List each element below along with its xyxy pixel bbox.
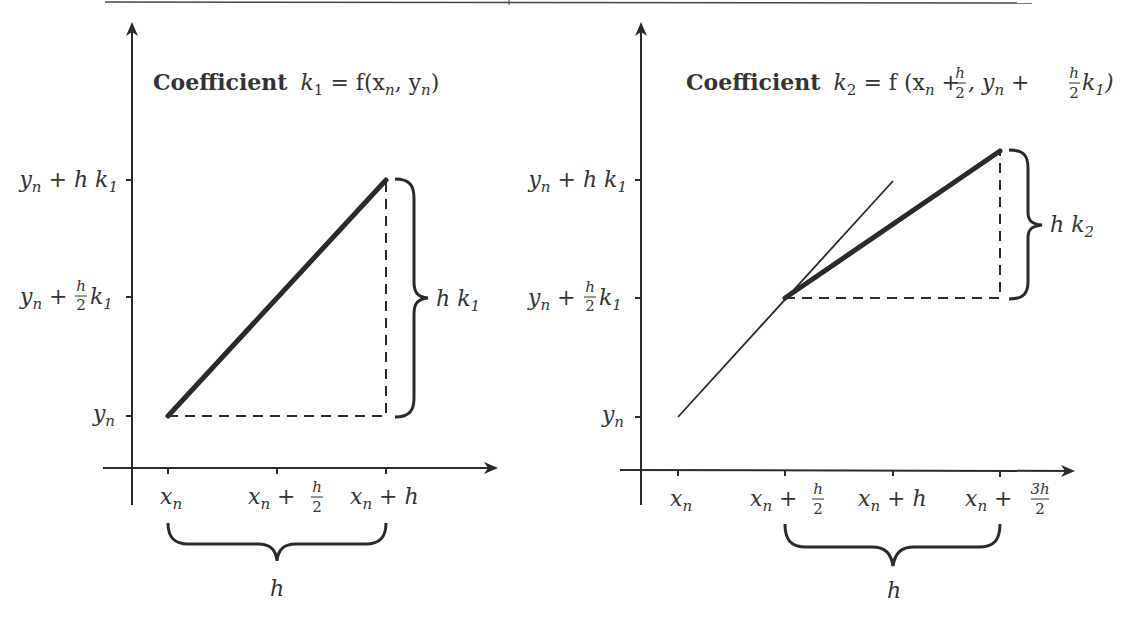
svg-text:Coefficient k2 = f (xn: Coefficient k2 = f (xn + [686, 69, 960, 99]
y-tick-label-base: yn [601, 402, 624, 431]
x-tick-label-3: xn + 3h 2 [965, 480, 1050, 518]
y-tick-label-mid: yn + h 2 k1 [527, 278, 622, 315]
svg-text:k1): k1) [1082, 70, 1113, 99]
y-tick-label-top: yn + h k1 [18, 167, 118, 196]
svg-text:h: h [312, 478, 322, 496]
y-tick-label-base: yn [92, 401, 115, 430]
svg-text:h: h [813, 480, 823, 498]
svg-text:xn +: xn + [750, 486, 798, 515]
slope-k2-line [785, 151, 1000, 298]
x-tick-label-0: xn [160, 484, 182, 513]
x-tick-label-1: xn + h 2 [750, 480, 824, 518]
panel-k2: Coefficient k2 = f (xn + h 2 , yn + h 2 … [527, 24, 1113, 603]
top-rule [105, 0, 1032, 5]
y-tick-label-top: yn + h k1 [527, 167, 627, 196]
svg-text:yn +: yn + [527, 285, 576, 314]
right-brace-label: h k1 [436, 286, 480, 315]
svg-text:2: 2 [585, 297, 595, 315]
svg-text:h: h [955, 64, 965, 82]
y-tick-label-mid: yn + h 2 k1 [19, 277, 113, 314]
svg-text:h: h [1069, 64, 1079, 82]
bottom-brace [785, 524, 1000, 566]
svg-text:yn +: yn + [19, 284, 68, 313]
right-brace [1009, 150, 1042, 299]
svg-text:, yn +: , yn + [968, 70, 1030, 99]
svg-text:2: 2 [1069, 84, 1079, 102]
panel-k1: Coefficient k1 = f(xn, yn) yn + h k1 yn … [18, 24, 496, 601]
x-tick-label-2: xn + h [350, 484, 419, 513]
svg-text:3h: 3h [1030, 480, 1049, 498]
x-axis [620, 470, 1073, 471]
bottom-brace-label: h [887, 578, 901, 603]
svg-text:2: 2 [1035, 500, 1045, 518]
svg-text:xn +: xn + [248, 484, 296, 513]
x-tick-label-0: xn [670, 486, 692, 515]
slope-k1-line [168, 180, 386, 416]
x-tick-label-2: xn + h [858, 486, 927, 515]
right-brace-label: h k2 [1050, 212, 1094, 241]
svg-text:2: 2 [312, 498, 322, 516]
svg-text:2: 2 [955, 84, 965, 102]
svg-text:xn +: xn + [965, 486, 1013, 515]
svg-text:h: h [76, 277, 86, 295]
panel-title: Coefficient k2 = f (xn + h 2 , yn + h 2 … [686, 64, 1113, 102]
panel-title: Coefficient k1 = f(xn, yn) [153, 69, 439, 99]
svg-text:h: h [585, 278, 595, 296]
bottom-brace-label: h [270, 576, 284, 601]
right-brace [395, 179, 428, 417]
svg-text:k1: k1 [599, 285, 622, 314]
runge-kutta-diagram: Coefficient k1 = f(xn, yn) yn + h k1 yn … [0, 0, 1141, 622]
x-tick-label-1: xn + h 2 [248, 478, 323, 516]
svg-text:2: 2 [813, 500, 823, 518]
bottom-brace [168, 523, 386, 561]
svg-text:2: 2 [76, 296, 86, 314]
svg-text:k1: k1 [90, 284, 113, 313]
